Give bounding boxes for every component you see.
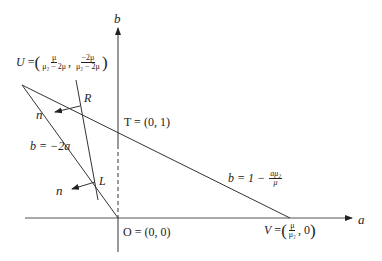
b-axis-label: b bbox=[114, 12, 121, 25]
V-separator: , 0 bbox=[298, 223, 310, 237]
point-T-label: T = (0, 1) bbox=[124, 116, 170, 128]
line-shallow-lhs: b = 1 − bbox=[228, 171, 265, 185]
point-R-label: R bbox=[84, 92, 91, 104]
normal-label-upper: n bbox=[36, 108, 43, 121]
line-shallow-label: b = 1 − aμ₂μ bbox=[228, 170, 283, 188]
U-x-denominator: μ₂ − 2μ bbox=[41, 63, 67, 71]
line-shallow-denominator: μ bbox=[273, 179, 279, 187]
point-O-label: O = (0, 0) bbox=[123, 226, 170, 238]
point-V-label: V =(μμ₂, 0) bbox=[264, 222, 316, 240]
normal-label-lower: n bbox=[56, 184, 63, 197]
line-steep-label: b = −2a bbox=[30, 140, 70, 152]
point-L-label: L bbox=[99, 175, 106, 187]
V-x-denominator: μ₂ bbox=[288, 231, 297, 239]
a-axis-label: a bbox=[358, 213, 365, 226]
diagram-canvas bbox=[0, 0, 382, 261]
normal-vector-at-R bbox=[55, 106, 80, 112]
point-U-name: U bbox=[16, 55, 25, 69]
normal-vector-at-L bbox=[72, 182, 95, 189]
U-separator: , bbox=[68, 55, 71, 69]
U-y-denominator: μ₂ − 2μ bbox=[75, 63, 101, 71]
point-U-label: U =(μμ₂ − 2μ, −2μμ₂ − 2μ) bbox=[16, 54, 108, 72]
point-V-name: V bbox=[264, 223, 271, 237]
